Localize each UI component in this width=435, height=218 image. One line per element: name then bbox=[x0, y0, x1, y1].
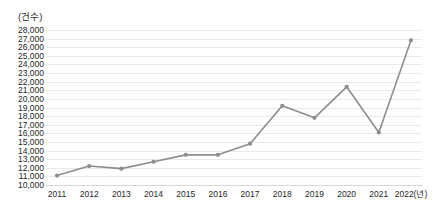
data-series-line bbox=[46, 30, 422, 185]
data-point bbox=[345, 85, 349, 89]
x-tick-label: 2013 bbox=[112, 190, 131, 199]
x-tick-label: 2016 bbox=[208, 190, 227, 199]
series-line-path bbox=[57, 40, 411, 175]
data-point bbox=[377, 130, 381, 134]
data-point bbox=[151, 160, 155, 164]
x-tick-label: 2018 bbox=[273, 190, 292, 199]
y-axis-tick-labels: 28,00027,00026,00025,00024,00023,00022,0… bbox=[0, 30, 44, 185]
data-point bbox=[87, 164, 91, 168]
x-tick-label: 2015 bbox=[176, 190, 195, 199]
y-axis-unit-label: (건수) bbox=[18, 9, 42, 23]
x-tick-label: 2021 bbox=[369, 190, 388, 199]
data-point bbox=[312, 116, 316, 120]
data-point bbox=[119, 167, 123, 171]
data-point bbox=[184, 153, 188, 157]
x-tick-label: 2014 bbox=[144, 190, 163, 199]
x-tick-label: 2011 bbox=[48, 190, 66, 199]
x-tick-label: 2020 bbox=[337, 190, 356, 199]
data-point bbox=[248, 142, 252, 146]
plot-area bbox=[46, 30, 422, 185]
line-chart: (건수) 28,00027,00026,00025,00024,00023,00… bbox=[0, 0, 435, 218]
x-tick-label: 2017 bbox=[241, 190, 260, 199]
y-tick-label: 10,000 bbox=[2, 181, 44, 190]
data-point bbox=[409, 38, 413, 42]
data-point bbox=[280, 104, 284, 108]
x-axis-tick-labels: 2011201220132014201520162017201820192020… bbox=[46, 190, 422, 210]
x-tick-label: 2019 bbox=[305, 190, 324, 199]
series-markers bbox=[55, 38, 413, 177]
data-point bbox=[216, 153, 220, 157]
data-point bbox=[55, 173, 59, 177]
x-tick-label: 2012 bbox=[80, 190, 99, 199]
x-tick-label: 2022(년) bbox=[395, 190, 428, 199]
gridline bbox=[46, 185, 422, 186]
